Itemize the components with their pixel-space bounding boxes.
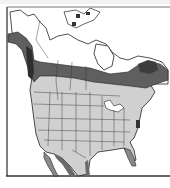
north-america-map <box>0 0 170 188</box>
range-map <box>0 0 170 188</box>
chesapeake-dark <box>136 120 140 128</box>
arctic-islands <box>64 8 100 28</box>
